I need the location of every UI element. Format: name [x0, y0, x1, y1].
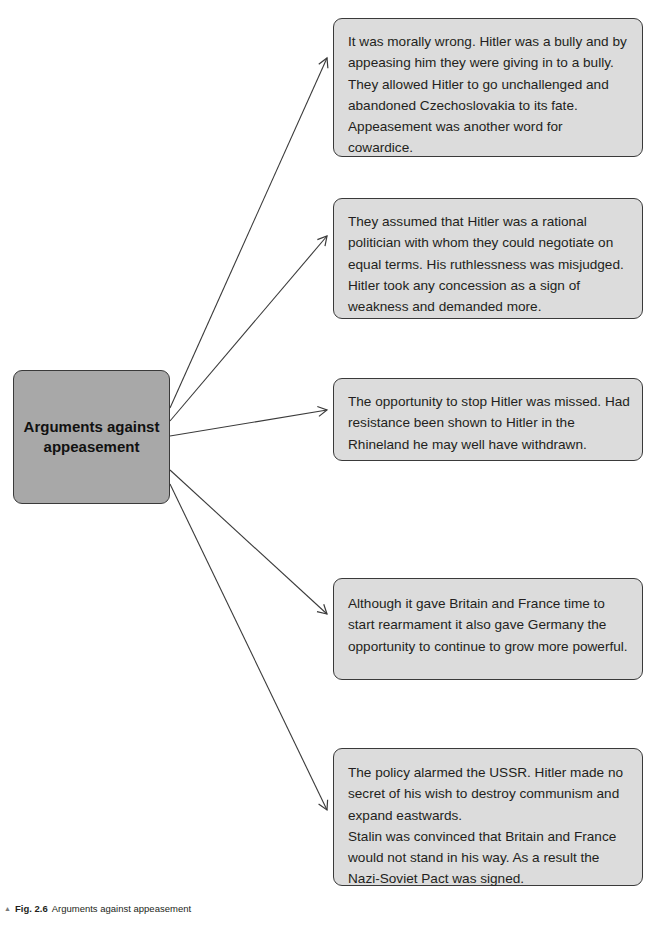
argument-box-3: The opportunity to stop Hitler was misse… — [333, 378, 643, 461]
arrow-to-argument-5 — [170, 484, 327, 810]
figure-caption: ▲Fig. 2.6Arguments against appeasement — [4, 903, 191, 914]
argument-box-5: The policy alarmed the USSR. Hitler made… — [333, 748, 643, 886]
arrow-to-argument-1 — [170, 58, 327, 408]
caption-text: Arguments against appeasement — [52, 903, 191, 914]
argument-box-4: Although it gave Britain and France time… — [333, 578, 643, 680]
argument-box-2: They assumed that Hitler was a rational … — [333, 198, 643, 319]
argument-text: They assumed that Hitler was a rational … — [348, 211, 630, 317]
arrow-to-argument-2 — [170, 236, 327, 421]
argument-text: The policy alarmed the USSR. Hitler made… — [348, 762, 630, 826]
arrow-to-argument-4 — [170, 470, 327, 614]
argument-text: The opportunity to stop Hitler was misse… — [348, 391, 630, 455]
triangle-marker-icon: ▲ — [4, 905, 11, 912]
central-node: Arguments against appeasement — [13, 370, 170, 504]
argument-text: It was morally wrong. Hitler was a bully… — [348, 31, 630, 159]
argument-text: Stalin was convinced that Britain and Fr… — [348, 826, 630, 890]
figure-label: Fig. 2.6 — [15, 903, 48, 914]
argument-box-1: It was morally wrong. Hitler was a bully… — [333, 18, 643, 157]
central-node-label: Arguments against appeasement — [14, 417, 169, 457]
argument-text: Although it gave Britain and France time… — [348, 593, 630, 657]
arrow-to-argument-3 — [170, 410, 327, 436]
